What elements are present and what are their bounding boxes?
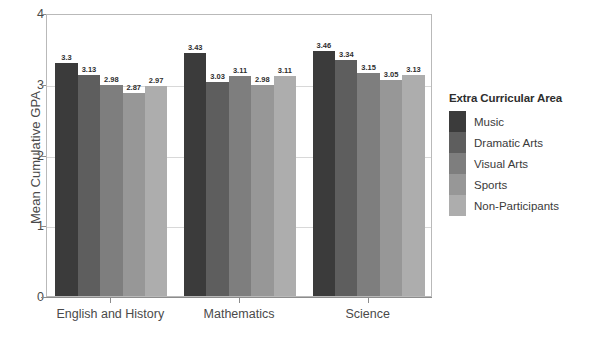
x-axis-tick-label: Science — [345, 307, 389, 321]
bar[interactable] — [274, 76, 296, 296]
bar-group-bars: 3.463.343.153.053.13 — [313, 15, 425, 296]
plot-inner: 3.33.132.982.872.973.433.033.112.983.113… — [47, 15, 431, 296]
bar-value-label: 3.11 — [278, 66, 292, 75]
bar-group: 3.433.033.112.983.11 — [184, 15, 296, 296]
bar[interactable] — [55, 63, 77, 296]
bar-value-label: 3.46 — [317, 41, 332, 50]
y-axis-tick-label: 2 — [0, 149, 44, 163]
legend-title: Extra Curricular Area — [449, 92, 589, 104]
bar[interactable] — [380, 80, 402, 296]
bar-slot: 3.43 — [184, 15, 206, 296]
bar[interactable] — [251, 85, 273, 296]
bar-slot: 3.15 — [357, 15, 379, 296]
bar-slot: 3.11 — [274, 15, 296, 296]
legend-item[interactable]: Dramatic Arts — [449, 132, 589, 153]
bar-value-label: 2.97 — [149, 76, 164, 85]
y-axis-tick-label: 3 — [0, 78, 44, 92]
bar-value-label: 3.15 — [361, 63, 376, 72]
y-axis-tick-label: 1 — [0, 219, 44, 233]
bar-value-label: 3.11 — [233, 66, 247, 75]
bar-slot: 2.98 — [100, 15, 122, 296]
legend-item[interactable]: Non-Participants — [449, 195, 589, 216]
bar[interactable] — [184, 53, 206, 296]
bar-value-label: 3.13 — [82, 65, 97, 74]
bar-slot: 3.05 — [380, 15, 402, 296]
bar-slot: 3.13 — [78, 15, 100, 296]
bar[interactable] — [313, 51, 335, 296]
x-axis-tick-label: English and History — [56, 307, 164, 321]
bar-slot: 3.11 — [229, 15, 251, 296]
bar[interactable] — [402, 75, 424, 296]
legend-swatch — [449, 153, 466, 174]
legend-swatch — [449, 111, 466, 132]
x-axis-tick-label: Mathematics — [204, 307, 275, 321]
x-axis-tick-mark — [110, 297, 111, 303]
bar[interactable] — [123, 93, 145, 296]
legend-item-label: Visual Arts — [474, 158, 528, 170]
legend-entries: MusicDramatic ArtsVisual ArtsSportsNon-P… — [449, 111, 589, 216]
legend-item-label: Non-Participants — [474, 200, 559, 212]
bar-value-label: 2.87 — [126, 83, 141, 92]
bar[interactable] — [335, 60, 357, 296]
x-axis-tick-mark — [368, 297, 369, 303]
bar[interactable] — [206, 82, 228, 296]
bar-value-label: 3.43 — [188, 43, 203, 52]
legend-item[interactable]: Sports — [449, 174, 589, 195]
bar[interactable] — [145, 86, 167, 296]
legend: Extra Curricular Area MusicDramatic Arts… — [449, 92, 589, 216]
bar[interactable] — [78, 75, 100, 296]
legend-swatch — [449, 174, 466, 195]
legend-swatch — [449, 132, 466, 153]
bar-value-label: 2.98 — [104, 75, 119, 84]
bar-slot: 2.98 — [251, 15, 273, 296]
bar-slot: 2.97 — [145, 15, 167, 296]
bar[interactable] — [357, 73, 379, 296]
x-axis-tick-mark — [239, 297, 240, 303]
bar-value-label: 3.03 — [210, 72, 225, 81]
bar-slot: 3.03 — [206, 15, 228, 296]
bar-slot: 3.3 — [55, 15, 77, 296]
bar-value-label: 2.98 — [255, 75, 270, 84]
bar-slot: 3.13 — [402, 15, 424, 296]
legend-item[interactable]: Visual Arts — [449, 153, 589, 174]
bar-value-label: 3.13 — [406, 65, 421, 74]
legend-item[interactable]: Music — [449, 111, 589, 132]
bar-slot: 2.87 — [123, 15, 145, 296]
plot-area: 3.33.132.982.872.973.433.033.112.983.113… — [46, 14, 432, 297]
bar-group-bars: 3.33.132.982.872.97 — [55, 15, 167, 296]
bar-chart: Mean Cumulative GPA 01234 3.33.132.982.8… — [0, 0, 591, 351]
legend-item-label: Dramatic Arts — [474, 137, 543, 149]
bar-value-label: 3.34 — [339, 50, 354, 59]
y-axis-tick-label: 4 — [0, 7, 44, 21]
bar-group: 3.33.132.982.872.97 — [55, 15, 167, 296]
legend-item-label: Music — [474, 116, 504, 128]
bar-value-label: 3.3 — [61, 53, 71, 62]
bar[interactable] — [100, 85, 122, 296]
bar-group-bars: 3.433.033.112.983.11 — [184, 15, 296, 296]
legend-swatch — [449, 195, 466, 216]
bar-slot: 3.34 — [335, 15, 357, 296]
legend-item-label: Sports — [474, 179, 507, 191]
bar-group: 3.463.343.153.053.13 — [313, 15, 425, 296]
bar[interactable] — [229, 76, 251, 296]
bar-value-label: 3.05 — [384, 70, 399, 79]
y-axis-tick-label: 0 — [0, 290, 44, 304]
bar-slot: 3.46 — [313, 15, 335, 296]
